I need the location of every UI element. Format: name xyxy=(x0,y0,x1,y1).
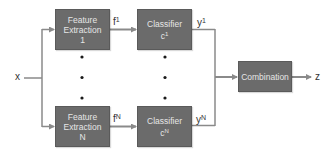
input-label-x: x xyxy=(15,72,20,82)
feature-extraction-1-line3: 1 xyxy=(80,35,85,45)
feature-extraction-n-line3: N xyxy=(79,132,85,142)
feature-extraction-1-line2: Extraction xyxy=(64,25,102,35)
feature-label-f1: f1 xyxy=(113,15,120,27)
ellipsis-dots xyxy=(80,55,166,99)
combination-label: Combination xyxy=(241,72,289,82)
combination-box: Combination xyxy=(238,61,292,92)
feature-extraction-n-line2: Extraction xyxy=(64,122,102,132)
classifier-n-c-sup: N xyxy=(164,128,168,134)
classifier-n-line1: Classifier xyxy=(147,116,182,126)
feature-extraction-1-box: Feature Extraction 1 xyxy=(55,9,110,50)
output-label-y1: y1 xyxy=(197,16,206,28)
ensemble-diagram: x Feature Extraction 1 f1 Classifier c1 … xyxy=(0,0,332,158)
classifier-1-line1: Classifier xyxy=(147,19,182,29)
classifier-1-box: Classifier c1 xyxy=(137,9,192,50)
classifier-n-box: Classifier cN xyxy=(137,106,192,147)
classifier-1-c-sup: 1 xyxy=(165,31,168,37)
feature-label-f1-sup: 1 xyxy=(116,16,120,23)
classifier-1-line2: c1 xyxy=(161,29,169,41)
classifier-n-line2: cN xyxy=(160,126,169,138)
output-label-y1-sup: 1 xyxy=(202,17,206,24)
feature-extraction-n-line1: Feature xyxy=(68,112,97,122)
output-label-z: z xyxy=(315,72,320,82)
output-label-yn: yN xyxy=(196,113,206,125)
output-label-yn-sup: N xyxy=(201,114,206,121)
feature-label-fn-sup: N xyxy=(116,113,121,120)
feature-extraction-n-box: Feature Extraction N xyxy=(55,106,110,147)
feature-extraction-1-line1: Feature xyxy=(68,15,97,25)
feature-label-fn: fN xyxy=(113,112,121,124)
